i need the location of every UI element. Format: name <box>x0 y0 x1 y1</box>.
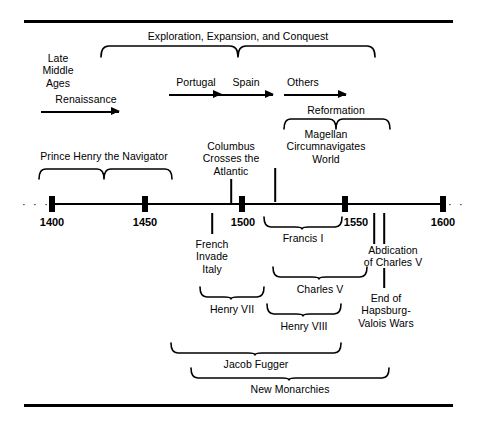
label-prince-henry-the-navigator: Prince Henry the Navigator <box>40 150 167 162</box>
axis-tick-1550 <box>342 196 348 212</box>
timeline-figure: Exploration, Expansion, and Conquest Lat… <box>0 0 477 423</box>
label-end-of-hapsburg-valois-wars: End of Hapsburg- Valois Wars <box>358 292 413 329</box>
tick-label-1600: 1600 <box>431 216 455 228</box>
label-french-invade-italy: French Invade Italy <box>196 238 229 275</box>
brace-exploration <box>100 44 376 58</box>
brace-jacob-fugger <box>170 342 342 356</box>
stem-french-invade-italy <box>211 213 213 234</box>
stem-end-of-wars-lower <box>383 268 385 288</box>
arrow-others <box>284 94 346 96</box>
brace-new-monarchies <box>190 367 390 381</box>
label-henry-viii: Henry VIII <box>280 320 327 332</box>
stem-abdication-of-charles-v <box>373 213 375 244</box>
brace-prince-henry <box>38 166 173 180</box>
label-francis-i: Francis I <box>283 232 324 244</box>
tick-label-1400: 1400 <box>40 216 64 228</box>
arrow-spain <box>221 94 273 96</box>
axis-tick-1450 <box>142 196 148 212</box>
label-reformation: Reformation <box>307 104 365 116</box>
label-renaissance: Renaissance <box>55 93 116 105</box>
label-exploration-expansion-conquest: Exploration, Expansion, and Conquest <box>148 30 328 42</box>
timeline-axis-line <box>52 203 443 205</box>
label-magellan: Magellan Circumnavigates World <box>287 128 366 165</box>
label-spain: Spain <box>232 76 259 88</box>
axis-tick-1600 <box>440 196 446 212</box>
brace-charles-v <box>272 266 368 280</box>
tick-label-1550: 1550 <box>344 216 368 228</box>
brace-henry-vii <box>199 286 265 300</box>
brace-francis-i <box>263 216 343 230</box>
label-columbus: Columbus Crosses the Atlantic <box>203 140 260 177</box>
axis-tick-1400 <box>49 196 55 212</box>
tick-label-1500: 1500 <box>231 216 255 228</box>
tick-label-1450: 1450 <box>133 216 157 228</box>
label-abdication-of-charles-v: Abdication of Charles V <box>364 244 422 269</box>
axis-tick-1500 <box>239 196 245 212</box>
label-late-middle-ages: Late Middle Ages <box>42 52 73 89</box>
axis-right-continuation: · · <box>448 202 465 206</box>
label-others: Others <box>287 76 319 88</box>
stem-columbus <box>230 179 232 203</box>
label-henry-vii: Henry VII <box>210 303 254 315</box>
label-charles-v: Charles V <box>297 283 344 295</box>
label-portugal: Portugal <box>176 76 216 88</box>
arrow-portugal <box>169 94 221 96</box>
stem-magellan <box>274 168 276 202</box>
bottom-divider-rule <box>24 404 453 407</box>
top-divider-rule <box>24 20 453 23</box>
label-new-monarchies: New Monarchies <box>251 383 330 395</box>
brace-henry-viii <box>266 303 342 317</box>
stem-end-of-wars-upper <box>383 213 385 244</box>
arrow-renaissance <box>41 111 119 113</box>
